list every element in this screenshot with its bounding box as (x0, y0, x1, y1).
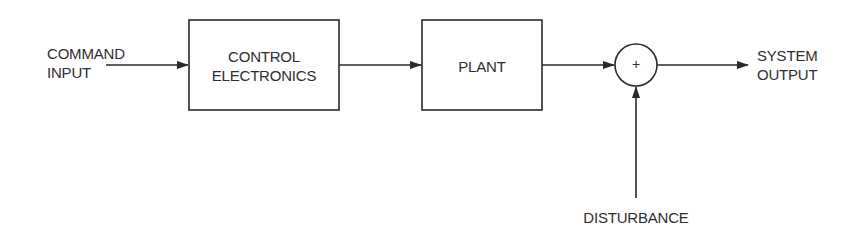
command-input-line1: COMMAND (47, 44, 125, 63)
command-input-label: COMMAND INPUT (47, 44, 125, 82)
command-input-line2: INPUT (47, 63, 125, 82)
summing-junction-symbol: + (616, 55, 656, 74)
disturbance-label: DISTURBANCE (576, 208, 696, 227)
disturbance-text: DISTURBANCE (583, 209, 688, 226)
system-output-line1: SYSTEM (757, 46, 817, 65)
system-output-line2: OUTPUT (757, 65, 817, 84)
block-diagram-canvas (0, 0, 868, 244)
control-label-line1: CONTROL (189, 47, 339, 66)
control-electronics-label: CONTROL ELECTRONICS (189, 47, 339, 85)
system-output-label: SYSTEM OUTPUT (757, 46, 817, 84)
plant-label: PLANT (422, 57, 542, 76)
control-label-line2: ELECTRONICS (189, 66, 339, 85)
plus-sign: + (632, 56, 640, 72)
plant-label-line1: PLANT (422, 57, 542, 76)
